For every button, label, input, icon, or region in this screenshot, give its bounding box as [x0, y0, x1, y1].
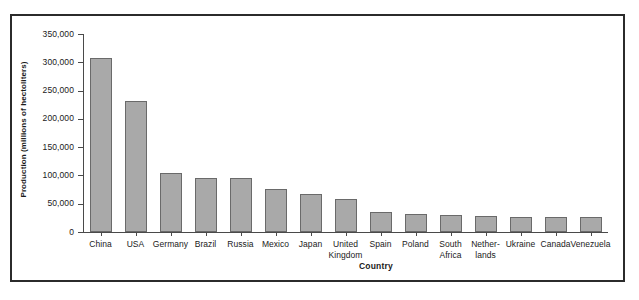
bar: [125, 101, 147, 232]
y-axis-tick-mark: [78, 232, 83, 233]
bar: [90, 58, 112, 232]
x-axis-tick-mark: [486, 232, 487, 236]
x-axis-tick-mark: [346, 232, 347, 236]
bar: [545, 217, 567, 232]
x-axis-title: Country: [316, 261, 436, 271]
bar-chart: Production (millions of hectoliters) 350…: [0, 0, 639, 300]
bar: [510, 217, 532, 232]
chart-screenshot: Production (millions of hectoliters) 350…: [0, 0, 639, 300]
y-axis-tick-label: 50,000: [18, 199, 74, 208]
x-axis-tick-mark: [101, 232, 102, 236]
bar: [160, 173, 182, 232]
bar: [475, 216, 497, 232]
x-axis-tick-mark: [591, 232, 592, 236]
bar: [195, 178, 217, 232]
x-axis-tick-mark: [556, 232, 557, 236]
y-axis-tick-mark: [78, 204, 83, 205]
bar: [335, 199, 357, 232]
x-axis-tick-mark: [311, 232, 312, 236]
y-axis-tick-mark: [78, 147, 83, 148]
bars-layer: [83, 34, 608, 232]
bar: [405, 214, 427, 232]
x-axis-ticks: [83, 232, 608, 238]
y-axis-tick-label: 250,000: [18, 86, 74, 95]
x-axis-tick-label: Venezuela: [569, 239, 613, 250]
y-axis-tick-label: 200,000: [18, 114, 74, 123]
x-axis-tick-mark: [276, 232, 277, 236]
y-axis-tick-label: 150,000: [18, 143, 74, 152]
y-axis-tick-label: 100,000: [18, 171, 74, 180]
y-axis-tick-mark: [78, 34, 83, 35]
x-axis-tick-mark: [241, 232, 242, 236]
y-axis-tick-mark: [78, 91, 83, 92]
bar: [300, 194, 322, 232]
x-axis-tick-mark: [416, 232, 417, 236]
y-axis-tick-label: 300,000: [18, 58, 74, 67]
x-axis-tick-mark: [136, 232, 137, 236]
bar: [265, 189, 287, 232]
bar: [440, 215, 462, 232]
x-axis-tick-label-line: Venezuela: [569, 239, 613, 250]
y-axis-tick-label: 350,000: [18, 30, 74, 39]
y-axis-tick-labels: 350,000300,000250,000200,000150,000100,0…: [16, 0, 74, 300]
bar: [370, 212, 392, 232]
x-axis-tick-label-line: lands: [464, 250, 508, 261]
x-axis-tick-mark: [521, 232, 522, 236]
y-axis-tick-mark: [78, 62, 83, 63]
x-axis-tick-label-line: Kingdom: [324, 250, 368, 261]
x-axis-tick-mark: [381, 232, 382, 236]
x-axis-tick-mark: [206, 232, 207, 236]
y-axis-tick-mark: [78, 119, 83, 120]
x-axis-tick-mark: [171, 232, 172, 236]
bar: [230, 178, 252, 232]
x-axis-tick-mark: [451, 232, 452, 236]
y-axis-tick-label: 0: [18, 228, 74, 237]
bar: [580, 217, 602, 232]
x-axis-tick-labels: ChinaUSAGermanyBrazilRussiaMexicoJapanUn…: [83, 239, 608, 263]
y-axis-tick-mark: [78, 175, 83, 176]
